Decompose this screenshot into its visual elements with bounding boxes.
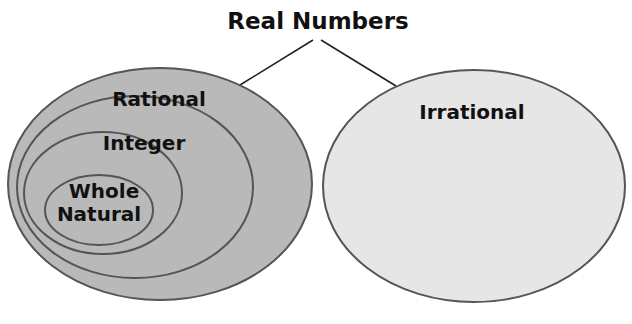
real-numbers-venn-diagram: Real Numbers Rational Integer Whole Natu… xyxy=(0,0,632,324)
label-whole: Whole xyxy=(69,179,139,203)
label-irrational: Irrational xyxy=(419,100,524,124)
label-rational: Rational xyxy=(112,87,206,111)
label-integer: Integer xyxy=(103,131,186,155)
connector-line-irrational xyxy=(321,40,396,86)
label-natural: Natural xyxy=(57,202,141,226)
connector-line-rational xyxy=(240,40,313,85)
diagram-title: Real Numbers xyxy=(227,8,408,34)
